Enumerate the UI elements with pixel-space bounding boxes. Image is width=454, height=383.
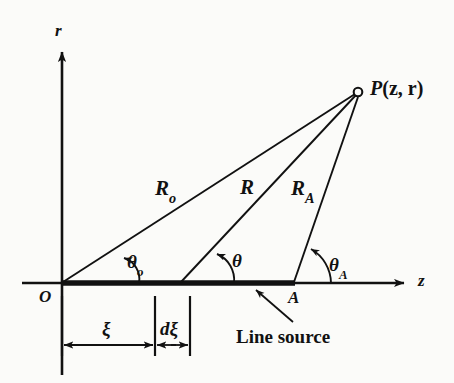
line-source-annotation-label: Line source (236, 327, 330, 346)
ray-label-R-letter: R (240, 175, 254, 199)
angle-label-theta-letter: θ (232, 250, 242, 271)
ray-label-R-sub-A-subscript: A (305, 190, 315, 206)
angle-label-theta-sub-A-subscript: A (339, 267, 348, 282)
origin-label: O (39, 288, 51, 305)
dimension-label-d-xi: dξ (160, 319, 178, 338)
ray-label-R: R (240, 177, 254, 201)
angle-label-theta: θ (232, 251, 242, 275)
point-P-args: (z, r) (382, 77, 423, 99)
line-source-diagram: r z O A P(z, r) Ro R RA θo θ θA ξ dξ Lin… (0, 0, 454, 383)
angle-label-theta-sub-A-letter: θ (329, 254, 339, 275)
z-axis-label: z (418, 272, 425, 289)
ray-label-R-sub-A: RA (291, 178, 315, 202)
diagram-canvas (0, 0, 454, 383)
ray-label-R-sub-o-subscript: o (169, 190, 176, 206)
point-P-label: P(z, r) (370, 78, 423, 98)
angle-label-theta-sub-A: θA (329, 255, 347, 279)
ray-label-R-sub-o-letter: R (155, 176, 169, 200)
angle-label-theta-sub-o-letter: θ (127, 251, 137, 272)
angle-label-theta-sub-o: θo (127, 252, 143, 276)
point-A-label: A (288, 289, 299, 306)
ray-label-R-sub-A-letter: R (291, 176, 305, 200)
angle-label-theta-sub-o-subscript: o (137, 264, 143, 279)
point-P-marker (354, 88, 363, 97)
dimension-label-xi: ξ (102, 319, 111, 338)
angle-arc-theta-sub-A (311, 249, 331, 283)
ray-label-R-sub-o: Ro (155, 178, 176, 202)
point-P-letter: P (370, 77, 382, 99)
r-axis-label: r (55, 22, 62, 39)
